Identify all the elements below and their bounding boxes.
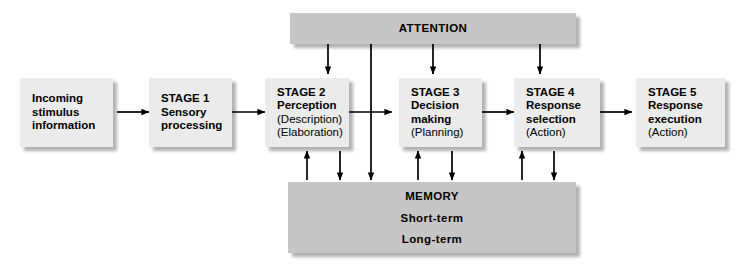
- information-processing-diagram: Incoming stimulus information STAGE 1 Se…: [0, 0, 750, 268]
- box-stage-2-line-1: STAGE 2: [277, 86, 349, 100]
- box-incoming-line-2: stimulus: [32, 106, 113, 120]
- box-incoming-stimulus[interactable]: Incoming stimulus information: [20, 78, 113, 147]
- bar-memory-label: MEMORY: [288, 190, 576, 202]
- bar-attention[interactable]: ATTENTION: [290, 13, 576, 44]
- box-stage-4-line-4: (Action): [526, 126, 600, 140]
- box-stage-1-line-2: Sensory: [161, 106, 232, 120]
- box-stage-5-line-4: (Action): [648, 126, 725, 140]
- bar-attention-label: ATTENTION: [290, 22, 576, 34]
- box-stage-5-line-2: Response: [648, 99, 725, 113]
- bar-memory[interactable]: MEMORY Short-term Long-term: [288, 182, 576, 253]
- box-stage-1-line-1: STAGE 1: [161, 92, 232, 106]
- box-stage-4-line-1: STAGE 4: [526, 86, 600, 100]
- bar-memory-short-term: Short-term: [288, 212, 576, 224]
- box-stage-5-line-3: execution: [648, 113, 725, 127]
- box-stage-1[interactable]: STAGE 1 Sensory processing: [149, 78, 232, 147]
- box-stage-5[interactable]: STAGE 5 Response execution (Action): [636, 78, 725, 147]
- box-stage-4[interactable]: STAGE 4 Response selection (Action): [514, 78, 600, 147]
- box-stage-3-line-4: (Planning): [411, 126, 482, 140]
- box-stage-2-line-3: (Description): [277, 113, 349, 127]
- box-stage-4-line-3: selection: [526, 113, 600, 127]
- box-stage-2-line-2: Perception: [277, 99, 349, 113]
- box-stage-1-line-3: processing: [161, 119, 232, 133]
- bar-memory-long-term: Long-term: [288, 233, 576, 245]
- box-stage-5-line-1: STAGE 5: [648, 86, 725, 100]
- box-stage-2[interactable]: STAGE 2 Perception (Description) (Elabor…: [265, 78, 349, 147]
- box-stage-3[interactable]: STAGE 3 Decision making (Planning): [399, 78, 482, 147]
- box-incoming-line-3: information: [32, 119, 113, 133]
- box-stage-4-line-2: Response: [526, 99, 600, 113]
- box-stage-2-line-4: (Elaboration): [277, 126, 349, 140]
- box-stage-3-line-2: Decision: [411, 99, 482, 113]
- box-stage-3-line-1: STAGE 3: [411, 86, 482, 100]
- box-stage-3-line-3: making: [411, 113, 482, 127]
- box-incoming-line-1: Incoming: [32, 92, 113, 106]
